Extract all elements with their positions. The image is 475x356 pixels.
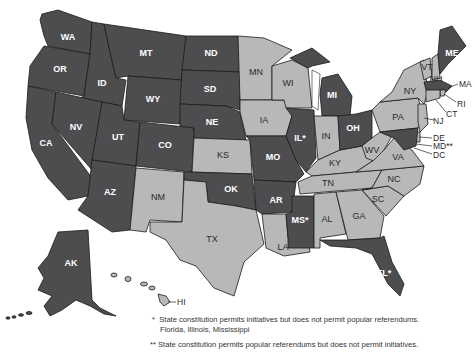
footnote-double-star: ** State constitution permits popular re…	[150, 340, 418, 349]
label-DC: DC	[433, 150, 445, 160]
us-states-map: WA OR CA ID NV MT WY UT AZ CO NM ND SD N…	[0, 0, 475, 356]
label-NH: NH	[430, 74, 443, 84]
label-MO: MO	[266, 152, 281, 162]
label-VT: VT	[421, 62, 433, 72]
label-HI: HI	[177, 297, 186, 307]
footnote-text: State constitution permits initiatives b…	[159, 315, 419, 324]
label-FL: FL*	[377, 268, 392, 278]
label-OK: OK	[224, 184, 238, 194]
state-FL	[320, 236, 404, 296]
label-AL: AL	[321, 214, 332, 224]
state-HI	[111, 273, 170, 306]
label-NJ: NJ	[433, 116, 443, 126]
label-KS: KS	[217, 150, 229, 160]
label-NC: NC	[388, 174, 401, 184]
label-LA: LA	[277, 242, 288, 252]
aleutian-islands	[6, 312, 32, 320]
label-ID: ID	[98, 78, 108, 88]
label-KY: KY	[329, 158, 341, 168]
label-IN: IN	[322, 131, 331, 141]
state-NJ	[418, 104, 428, 132]
label-CA: CA	[40, 138, 53, 148]
footnote-single-star: * State constitution permits initiatives…	[152, 315, 419, 324]
label-NV: NV	[70, 122, 83, 132]
label-NM: NM	[151, 192, 165, 202]
label-IA: IA	[260, 115, 269, 125]
label-AR: AR	[270, 195, 283, 205]
label-GA: GA	[352, 211, 365, 221]
label-OH: OH	[346, 123, 360, 133]
state-AK	[38, 230, 116, 316]
label-PA: PA	[392, 112, 403, 122]
footnote-text: State constitution permits popular refer…	[158, 340, 418, 349]
label-VA: VA	[392, 152, 403, 162]
label-NY: NY	[404, 86, 417, 96]
label-IL: IL*	[294, 133, 306, 143]
label-WY: WY	[146, 94, 161, 104]
label-WV: WV	[365, 145, 380, 155]
label-TN: TN	[322, 178, 334, 188]
label-AZ: AZ	[104, 187, 116, 197]
state-CT	[426, 90, 440, 102]
label-TX: TX	[206, 234, 218, 244]
label-WA: WA	[61, 32, 76, 42]
label-MA: MA	[459, 79, 472, 89]
label-SD: SD	[204, 84, 217, 94]
label-MS: MS*	[291, 215, 309, 225]
label-CT: CT	[446, 109, 457, 119]
lake-michigan	[312, 70, 320, 110]
label-AK: AK	[65, 258, 78, 268]
label-MN: MN	[249, 67, 263, 77]
label-WI: WI	[283, 78, 294, 88]
label-UT: UT	[112, 132, 124, 142]
label-ND: ND	[205, 48, 218, 58]
label-ME: ME	[445, 48, 459, 58]
label-CO: CO	[158, 140, 172, 150]
label-MI: MI	[327, 90, 337, 100]
label-SC: SC	[372, 194, 385, 204]
footnote-marker: **	[150, 340, 156, 349]
label-RI: RI	[457, 99, 466, 109]
footnote-marker: *	[152, 315, 155, 324]
label-OR: OR	[53, 64, 67, 74]
label-MT: MT	[140, 48, 153, 58]
footnote-single-star-states: Florida, Illinois, Mississippi	[160, 325, 249, 334]
label-NE: NE	[206, 117, 219, 127]
